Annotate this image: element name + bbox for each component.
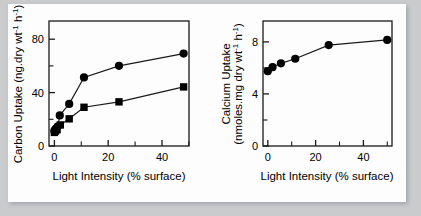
right-xtick-label-40: 40 xyxy=(357,151,369,163)
data-point-circle xyxy=(325,41,333,49)
chart-calcium-uptake: 0 4 8 0 20 40 Light Intensity (% surface… xyxy=(220,21,394,182)
right-ytick-label-0: 0 xyxy=(252,140,258,152)
right-yaxis-units-a: (nmoles.mg dry wt xyxy=(232,50,244,145)
data-point-circle xyxy=(268,63,276,71)
x-ticks-right xyxy=(268,140,364,146)
chart-carbon-uptake: 0 40 80 0 20 40 Light Intensity (% surfa… xyxy=(11,4,189,182)
left-yaxis-title: Carbon Uptake (ng.dry wt-1 h-1) xyxy=(11,4,24,163)
right-ytick-label-4: 4 xyxy=(252,88,258,100)
left-xtick-label-0: 0 xyxy=(51,151,57,163)
figure-panel: 0 40 80 0 20 40 Light Intensity (% surfa… xyxy=(8,4,406,202)
right-yaxis-units-b: h xyxy=(232,34,244,44)
right-yaxis-title-line2: (nmoles.mg dry wt-1 h-1) xyxy=(231,23,244,145)
series-right-circles-line xyxy=(264,36,392,75)
y-ticks-right xyxy=(263,42,269,146)
data-point-square xyxy=(80,104,87,111)
left-ytick-label-40: 40 xyxy=(32,87,44,99)
left-yaxis-title-mid: h xyxy=(12,16,24,26)
figure-canvas: 0 40 80 0 20 40 Light Intensity (% surfa… xyxy=(8,4,406,202)
data-point-circle xyxy=(65,100,73,108)
left-ytick-label-0: 0 xyxy=(38,140,44,152)
data-point-circle xyxy=(277,59,285,67)
data-point-square xyxy=(115,98,122,105)
x-ticks-left xyxy=(54,140,162,146)
left-xtick-label-20: 20 xyxy=(102,151,114,163)
plot-frame-right xyxy=(263,21,392,146)
data-point-circle xyxy=(291,55,299,63)
figure-root: 0 40 80 0 20 40 Light Intensity (% surfa… xyxy=(0,0,421,216)
plot-frame-left xyxy=(49,21,189,146)
data-point-square xyxy=(65,115,72,122)
data-point-circle xyxy=(80,73,88,81)
x-minor-ticks-right xyxy=(292,142,388,147)
left-yaxis-title-main: Carbon Uptake (ng.dry wt xyxy=(12,32,24,164)
right-xaxis-title: Light Intensity (% surface) xyxy=(261,170,394,182)
right-xtick-label-0: 0 xyxy=(265,151,271,163)
left-xaxis-title: Light Intensity (% surface) xyxy=(53,170,186,182)
data-point-circle xyxy=(54,122,62,130)
left-ytick-label-80: 80 xyxy=(32,33,44,45)
series-left-squares-line xyxy=(51,83,188,136)
right-xtick-label-20: 20 xyxy=(309,151,321,163)
data-point-circle xyxy=(180,50,188,58)
x-minor-ticks-left xyxy=(81,142,189,147)
right-yaxis-units-c: ) xyxy=(232,23,244,27)
series-line xyxy=(54,87,183,133)
left-xtick-label-40: 40 xyxy=(156,151,168,163)
data-point-circle xyxy=(115,62,123,70)
left-yaxis-title-end: ) xyxy=(12,4,24,8)
data-point-circle xyxy=(56,111,64,119)
data-point-circle xyxy=(383,36,391,44)
data-point-square xyxy=(180,83,187,90)
right-yaxis-title-line1: Calcium Uptake xyxy=(220,43,232,124)
right-ytick-label-8: 8 xyxy=(252,36,258,48)
